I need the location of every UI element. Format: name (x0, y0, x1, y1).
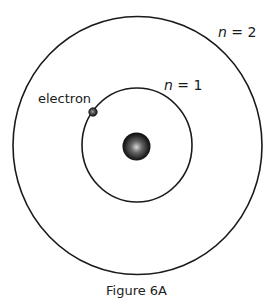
orbit-n2-eq: = (227, 24, 248, 40)
orbit-n2-value: 2 (248, 24, 257, 40)
atom-diagram (0, 0, 273, 301)
nucleus (123, 133, 151, 161)
orbit-n1-value: 1 (194, 77, 203, 93)
electron-label: electron (38, 92, 91, 105)
orbit-n1-eq: = (173, 77, 194, 93)
orbit-n2-label: n = 2 (218, 25, 256, 39)
figure-caption: Figure 6A (0, 283, 273, 298)
orbit-n1-label: n = 1 (164, 78, 202, 92)
orbit-n2-var: n (218, 24, 227, 40)
electron (89, 108, 97, 116)
orbit-n1-var: n (164, 77, 173, 93)
